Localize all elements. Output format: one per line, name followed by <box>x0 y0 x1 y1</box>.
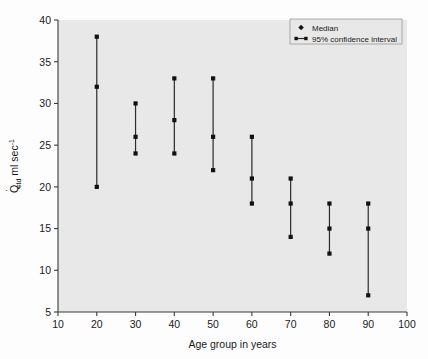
x-axis-title-text: Age group in years <box>188 338 276 350</box>
x-tick-label-20: 20 <box>91 318 103 330</box>
median-marker-age-70 <box>289 201 293 205</box>
ylabel-subscript: std <box>15 178 22 187</box>
y-tick-label-15: 15 <box>39 222 51 234</box>
ylabel-exponent: -1 <box>8 139 15 145</box>
lower-marker-age-50 <box>211 168 215 172</box>
error-bar-chart: 510152025303540 102030405060708090100 Ag… <box>0 0 428 359</box>
median-marker-age-50 <box>211 135 215 139</box>
plot-background <box>58 20 407 312</box>
upper-marker-age-80 <box>327 201 331 205</box>
lower-marker-age-20 <box>95 185 99 189</box>
x-tick-label-50: 50 <box>207 318 219 330</box>
y-axis-tick-marks <box>54 20 58 312</box>
x-tick-label-90: 90 <box>362 318 374 330</box>
legend-ci-dot-right-icon <box>304 37 307 40</box>
lower-marker-age-70 <box>289 235 293 239</box>
x-tick-label-60: 60 <box>246 318 258 330</box>
ylabel-dot: ˙ <box>5 188 16 191</box>
median-marker-age-60 <box>250 176 254 180</box>
legend-label-1: 95% confidence interval <box>312 35 397 44</box>
upper-marker-age-60 <box>250 135 254 139</box>
lower-marker-age-30 <box>133 151 137 155</box>
x-axis-tick-marks <box>58 312 407 316</box>
y-axis-tick-labels: 510152025303540 <box>39 14 51 318</box>
upper-marker-age-50 <box>211 76 215 80</box>
x-tick-label-30: 30 <box>130 318 142 330</box>
y-tick-label-35: 35 <box>39 56 51 68</box>
chart-legend[interactable]: Median95% confidence interval <box>290 19 402 44</box>
upper-marker-age-30 <box>133 101 137 105</box>
lower-marker-age-40 <box>172 151 176 155</box>
x-axis-title: Age group in years <box>188 338 276 350</box>
y-tick-label-10: 10 <box>39 264 51 276</box>
y-axis-title-text: Q˙std ml sec-1 <box>5 139 22 193</box>
upper-marker-age-40 <box>172 76 176 80</box>
x-tick-label-80: 80 <box>324 318 336 330</box>
y-axis-title: Q˙std ml sec-1 <box>5 139 22 193</box>
upper-marker-age-70 <box>289 176 293 180</box>
upper-marker-age-90 <box>366 201 370 205</box>
y-tick-label-40: 40 <box>39 14 51 26</box>
y-tick-label-20: 20 <box>39 181 51 193</box>
lower-marker-age-60 <box>250 201 254 205</box>
x-tick-label-100: 100 <box>398 318 416 330</box>
median-marker-age-40 <box>172 118 176 122</box>
upper-marker-age-20 <box>95 35 99 39</box>
chart-figure: 510152025303540 102030405060708090100 Ag… <box>0 0 428 359</box>
lower-marker-age-90 <box>366 293 370 297</box>
lower-marker-age-80 <box>327 252 331 256</box>
x-tick-label-40: 40 <box>168 318 180 330</box>
y-tick-label-5: 5 <box>45 306 51 318</box>
ylabel-units: ml sec <box>8 145 20 178</box>
median-marker-age-30 <box>133 135 137 139</box>
y-tick-label-25: 25 <box>39 139 51 151</box>
median-marker-age-20 <box>95 85 99 89</box>
median-marker-age-80 <box>327 226 331 230</box>
legend-label-0: Median <box>312 24 338 33</box>
x-tick-label-70: 70 <box>285 318 297 330</box>
x-axis-tick-labels: 102030405060708090100 <box>52 318 416 330</box>
x-tick-label-10: 10 <box>52 318 64 330</box>
legend-ci-dot-left-icon <box>294 37 297 40</box>
y-tick-label-30: 30 <box>39 97 51 109</box>
median-marker-age-90 <box>366 226 370 230</box>
